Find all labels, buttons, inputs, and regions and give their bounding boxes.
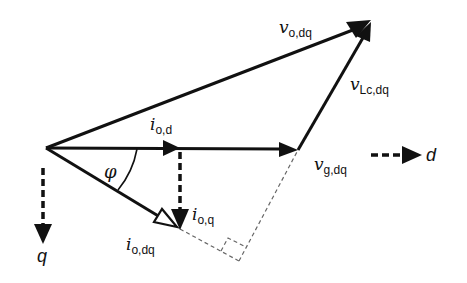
label-i-o-dq-sub: o,dq bbox=[131, 243, 154, 257]
vector-i-o-d bbox=[163, 140, 180, 156]
label-i-o-dq: io,dq bbox=[126, 234, 155, 257]
label-v-o-dq-symbol: v bbox=[279, 17, 289, 37]
label-d-axis: d bbox=[426, 145, 437, 165]
label-phi: φ bbox=[104, 161, 117, 182]
label-i-o-d: io,d bbox=[150, 114, 172, 137]
label-v-o-dq: vo,dq bbox=[279, 17, 312, 40]
label-i-o-q-sub: o,q bbox=[197, 213, 214, 227]
label-i-o-d-sub: o,d bbox=[155, 123, 172, 137]
angle-arc bbox=[118, 149, 137, 190]
vector-v-o-dq bbox=[46, 20, 371, 148]
label-v-lc-dq-symbol: v bbox=[350, 74, 360, 94]
label-v-lc-dq-sub: Lc,dq bbox=[360, 83, 389, 97]
label-v-lc-dq: vLc,dq bbox=[350, 74, 389, 97]
label-q-axis: q bbox=[37, 246, 47, 266]
label-i-o-q: io,q bbox=[192, 204, 214, 227]
vector-i-o-q bbox=[171, 152, 189, 230]
label-v-g-dq: vg,dq bbox=[314, 154, 347, 177]
q-axis-arrow bbox=[34, 168, 52, 244]
d-axis-arrow bbox=[371, 146, 422, 164]
phasor-diagram: vo,dq vLc,dq vg,dq io,d io,q io,dq φ d q bbox=[0, 0, 467, 283]
label-v-o-dq-sub: o,dq bbox=[289, 26, 312, 40]
perpendicular-guide bbox=[180, 150, 298, 261]
label-v-g-dq-sub: g,dq bbox=[324, 163, 347, 177]
label-v-g-dq-symbol: v bbox=[314, 154, 324, 174]
vector-i-o-dq bbox=[46, 148, 177, 227]
